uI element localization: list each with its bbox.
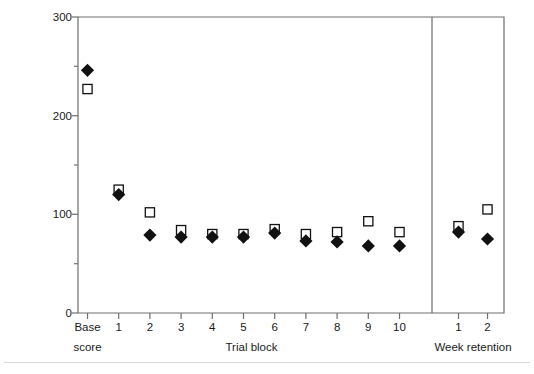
- x-tick-label-base-score-line2: score: [73, 341, 101, 354]
- x-tick-label-0: Base: [74, 321, 100, 334]
- x-ticks: [88, 313, 488, 319]
- marker-open-square-10: [395, 227, 404, 236]
- marker-open-square-12: [483, 205, 492, 214]
- marker-open-square-9: [364, 217, 373, 226]
- x-tick-label-7: 7: [303, 321, 309, 334]
- x-tick-label-2: 2: [147, 321, 153, 334]
- x-tick-label-10: 10: [393, 321, 406, 334]
- x-tick-label-11: 1: [455, 321, 461, 334]
- y-tick-label-0: 0: [38, 307, 72, 319]
- marker-open-square-2: [145, 208, 154, 217]
- chart-figure: Error score – right pedal 300 200 100 0 …: [0, 0, 534, 374]
- x-axis-group-label-trial-block: Trial block: [226, 341, 278, 354]
- marker-filled-diamond-10: [393, 239, 406, 252]
- footer-rule: [4, 362, 530, 363]
- x-tick-label-8: 8: [334, 321, 340, 334]
- x-tick-label-6: 6: [271, 321, 277, 334]
- x-tick-label-3: 3: [178, 321, 184, 334]
- x-axis-group-label-week-retention: Week retention: [434, 341, 511, 354]
- marker-filled-diamond-12: [481, 232, 494, 245]
- x-tick-label-4: 4: [209, 321, 215, 334]
- marker-filled-diamond-2: [143, 228, 156, 241]
- x-tick-label-5: 5: [240, 321, 246, 334]
- x-tick-label-12: 2: [484, 321, 490, 334]
- marker-filled-diamond-9: [362, 239, 375, 252]
- marker-filled-diamond-0: [81, 64, 94, 77]
- marker-open-square-0: [83, 84, 92, 93]
- x-tick-label-1: 1: [115, 321, 121, 334]
- y-tick-label-200: 200: [38, 110, 72, 122]
- plot-canvas: [0, 0, 534, 374]
- y-tick-label-100: 100: [38, 208, 72, 220]
- frame-rect: [78, 17, 504, 313]
- y-tick-label-300: 300: [38, 11, 72, 23]
- x-tick-label-9: 9: [365, 321, 371, 334]
- marker-open-square-8: [333, 227, 342, 236]
- plot-frame: [78, 17, 504, 313]
